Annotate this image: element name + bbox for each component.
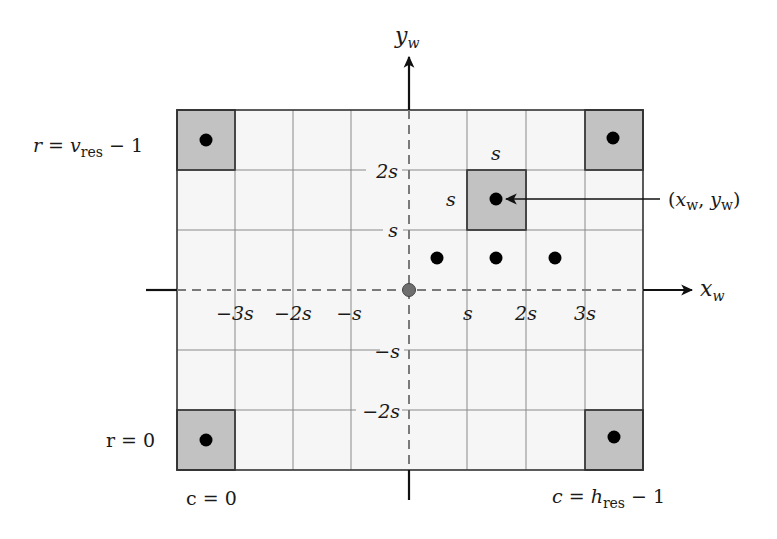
dot-bottom-left xyxy=(200,434,213,447)
x-tick-neg-3s: −3s xyxy=(216,302,254,324)
cell-width-label: s xyxy=(491,142,501,164)
x-tick-2s: 2s xyxy=(514,302,537,324)
col-right-label: c = hres − 1 xyxy=(552,485,665,511)
col-left-label: c = 0 xyxy=(186,487,237,509)
dot-row-b xyxy=(490,252,503,265)
x-tick-neg-2s: −2s xyxy=(274,302,312,324)
y-tick-2s: 2s xyxy=(375,160,398,182)
y-axis-label: yw xyxy=(394,23,419,51)
x-axis-label: xw xyxy=(700,276,724,304)
dot-top-left xyxy=(200,134,213,147)
dot-sample-pixel xyxy=(490,193,503,206)
x-tick-neg-s: −s xyxy=(336,302,362,324)
dot-bottom-right xyxy=(608,431,621,444)
y-tick-neg-s: −s xyxy=(374,340,400,362)
y-tick-neg-2s: −2s xyxy=(362,400,400,422)
dot-top-right xyxy=(607,132,620,145)
pixel-grid-diagram: 2s s −s −2s −3s −2s −s s 2s 3s s s yw xw… xyxy=(0,0,777,539)
x-tick-s: s xyxy=(463,302,473,324)
row-bottom-label: r = 0 xyxy=(106,429,155,451)
dot-row-a xyxy=(431,252,444,265)
cell-height-label: s xyxy=(446,188,456,210)
point-label: (xw, yw) xyxy=(668,188,740,213)
dot-row-c xyxy=(549,252,562,265)
row-top-label: r = vres − 1 xyxy=(33,134,143,160)
y-tick-s: s xyxy=(388,219,398,241)
x-tick-3s: 3s xyxy=(574,302,596,324)
origin-dot xyxy=(403,284,416,297)
